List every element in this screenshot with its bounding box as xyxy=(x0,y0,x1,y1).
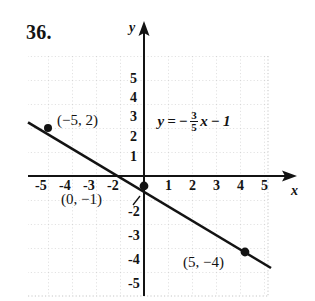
y-tick-label-3: 3 xyxy=(130,110,137,124)
fraction-denominator: 5 xyxy=(190,121,198,133)
graph-svg xyxy=(0,0,315,301)
x-axis-label: x xyxy=(291,184,298,198)
coordinate-graph xyxy=(0,0,315,301)
x-tick-label-1: 1 xyxy=(165,179,172,193)
data-point-neg5-2 xyxy=(44,124,52,132)
equation-operator-minus: − xyxy=(211,114,220,129)
y-tick-label-1: 1 xyxy=(130,150,137,164)
x-tick-label-4: 4 xyxy=(237,179,244,193)
x-tick-label-neg2: -2 xyxy=(107,179,119,193)
y-axis-label: y xyxy=(129,21,135,35)
point-label-neg5-2: (−5, 2) xyxy=(57,113,98,128)
y-tick-label-neg4: -4 xyxy=(128,253,140,267)
fraction-numerator: 3 xyxy=(190,110,198,121)
y-tick-label-4: 4 xyxy=(130,91,137,105)
y-tick-label-neg5: -5 xyxy=(128,277,140,291)
figure-container: 36. xyxy=(0,0,315,301)
equation-variable: x xyxy=(200,114,208,129)
equation-label: y = − 3 5 x − 1 xyxy=(156,110,232,133)
equation-fraction: 3 5 xyxy=(190,110,198,133)
x-tick-label-neg5: -5 xyxy=(35,179,47,193)
y-tick-label-neg3: -3 xyxy=(128,229,140,243)
point-label-0-neg1: (0, −1) xyxy=(61,192,102,207)
equation-y: y xyxy=(158,114,165,129)
y-tick-label-5: 5 xyxy=(130,72,137,86)
equation-constant: 1 xyxy=(223,114,231,129)
data-point-5-neg4 xyxy=(241,248,250,257)
x-tick-label-5: 5 xyxy=(261,179,268,193)
x-tick-label-2: 2 xyxy=(189,179,196,193)
y-tick-label-2: 2 xyxy=(130,130,137,144)
equation-equals: = xyxy=(167,114,176,129)
y-tick-label-neg2: -2 xyxy=(128,205,140,219)
point-label-5-neg4: (5, −4) xyxy=(183,255,224,270)
data-point-0-neg1 xyxy=(140,182,149,191)
equation-leading-minus: − xyxy=(179,114,188,129)
x-tick-label-3: 3 xyxy=(213,179,220,193)
